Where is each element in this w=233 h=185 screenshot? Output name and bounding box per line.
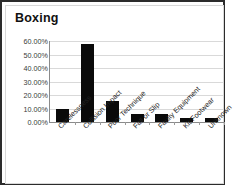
y-axis-tick-label: 10.00% (24, 104, 48, 113)
y-axis-tick-label: 20.00% (24, 91, 48, 100)
bar (81, 44, 94, 122)
gridline (50, 68, 224, 69)
y-axis-tick-label: 30.00% (24, 77, 48, 86)
gridline (50, 82, 224, 83)
chart-card: Boxing 60.00% 50.00% 40.00% 30.00% 20.00… (5, 5, 224, 184)
y-axis-tick-label: 40.00% (24, 64, 48, 73)
chart-title: Boxing (15, 11, 59, 25)
gridline (50, 41, 224, 42)
gridline (50, 55, 224, 56)
x-axis-labels: Carelessness Collision Impact Poor Techn… (50, 124, 225, 185)
image-frame: Boxing 60.00% 50.00% 40.00% 30.00% 20.00… (0, 0, 225, 185)
y-axis-line (49, 41, 50, 123)
y-axis-labels: 60.00% 50.00% 40.00% 30.00% 20.00% 10.00… (6, 41, 48, 122)
y-axis-tick-label: 0.00% (28, 118, 48, 127)
y-axis-tick-label: 60.00% (24, 37, 48, 46)
y-axis-tick-label: 50.00% (24, 50, 48, 59)
